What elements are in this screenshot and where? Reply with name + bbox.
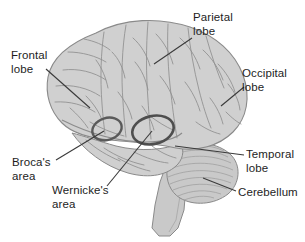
brain-illustration [0, 0, 305, 242]
label-parietal-lobe: Parietal lobe [193, 11, 233, 38]
label-brocas-area: Broca's area [12, 156, 51, 183]
label-cerebellum: Cerebellum [238, 186, 298, 200]
label-occipital-lobe: Occipital lobe [242, 67, 287, 94]
brain-anatomy-figure: Frontal lobe Parietal lobe Occipital lob… [0, 0, 305, 242]
label-frontal-lobe: Frontal lobe [11, 49, 48, 76]
label-wernickes-area: Wernicke's area [52, 184, 109, 211]
label-temporal-lobe: Temporal lobe [246, 148, 294, 175]
